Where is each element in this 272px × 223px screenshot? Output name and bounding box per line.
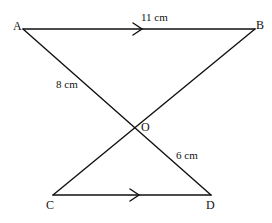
length-label-ao: 8 cm [56, 79, 78, 90]
segment-bc [53, 29, 255, 195]
point-label-a: A [13, 20, 22, 32]
point-label-b: B [256, 19, 264, 31]
diagram-lines [0, 0, 272, 223]
point-label-o: O [141, 121, 150, 133]
point-label-d: D [206, 199, 215, 211]
length-label-ab: 11 cm [141, 12, 168, 23]
length-label-od: 6 cm [176, 150, 198, 161]
geometry-diagram: A B O C D 11 cm 8 cm 6 cm [0, 0, 272, 223]
point-label-c: C [46, 199, 54, 211]
segment-ad [23, 29, 211, 195]
